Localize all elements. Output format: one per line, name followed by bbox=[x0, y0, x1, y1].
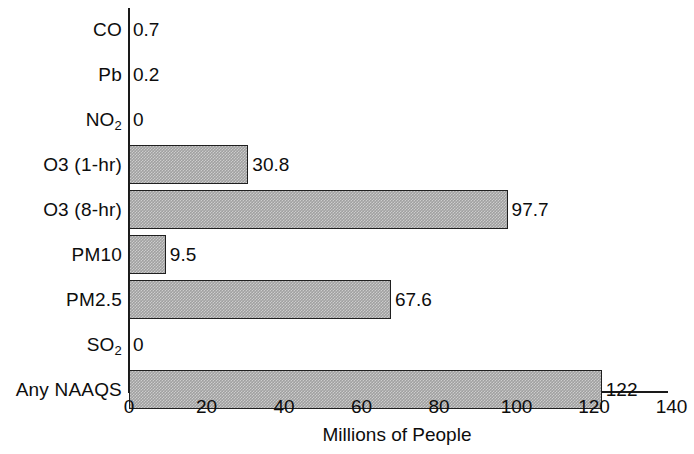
bar-row: PM109.5 bbox=[0, 235, 694, 274]
bar-row: Pb0.2 bbox=[0, 55, 694, 94]
bar-row: SO20 bbox=[0, 325, 694, 364]
x-tick-label: 0 bbox=[124, 396, 135, 418]
bar-value-label: 0 bbox=[129, 325, 144, 364]
bar-row: PM2.567.6 bbox=[0, 280, 694, 319]
x-tick-label: 60 bbox=[351, 396, 372, 418]
x-axis-title-text: Millions of People bbox=[323, 424, 472, 445]
bar-row: NO20 bbox=[0, 100, 694, 139]
bar-category-label: Any NAAQS bbox=[16, 370, 122, 409]
x-tick-label: 120 bbox=[578, 396, 610, 418]
x-tick-label: 80 bbox=[428, 396, 449, 418]
bar-category-label: O3 (1-hr) bbox=[43, 145, 122, 184]
bar-category-label: SO2 bbox=[87, 325, 122, 364]
x-tick-label: 40 bbox=[273, 396, 294, 418]
bar bbox=[129, 190, 508, 229]
bar-row: CO0.7 bbox=[0, 10, 694, 49]
x-tick-label: 140 bbox=[656, 396, 688, 418]
bar-category-label-subscript: 2 bbox=[115, 118, 122, 133]
bar bbox=[129, 280, 391, 319]
bar-category-label-subscript: 2 bbox=[115, 343, 122, 358]
bar-value-label: 67.6 bbox=[391, 280, 432, 319]
bar-category-label: CO bbox=[93, 10, 122, 49]
x-tick-label: 100 bbox=[501, 396, 533, 418]
bar-category-label: NO2 bbox=[86, 100, 122, 139]
bar-category-label: PM2.5 bbox=[66, 280, 122, 319]
bar bbox=[129, 145, 248, 184]
bar-row: O3 (1-hr)30.8 bbox=[0, 145, 694, 184]
plot-area: CO0.7Pb0.2NO20O3 (1-hr)30.8O3 (8-hr)97.7… bbox=[0, 0, 694, 454]
bar-row: O3 (8-hr)97.7 bbox=[0, 190, 694, 229]
bar-value-label: 0.2 bbox=[129, 55, 159, 94]
bar-category-label: PM10 bbox=[72, 235, 122, 274]
bar bbox=[129, 235, 166, 274]
bar-value-label: 0.7 bbox=[129, 10, 159, 49]
bar-category-label: O3 (8-hr) bbox=[43, 190, 122, 229]
bar-value-label: 30.8 bbox=[248, 145, 289, 184]
bar-value-label: 9.5 bbox=[166, 235, 196, 274]
bar-category-label: Pb bbox=[98, 55, 122, 94]
x-tick-label: 20 bbox=[196, 396, 217, 418]
bar-value-label: 0 bbox=[129, 100, 144, 139]
bar-value-label: 97.7 bbox=[508, 190, 549, 229]
x-axis-title: Millions of People bbox=[0, 424, 694, 446]
bar-chart: CO0.7Pb0.2NO20O3 (1-hr)30.8O3 (8-hr)97.7… bbox=[0, 0, 694, 454]
